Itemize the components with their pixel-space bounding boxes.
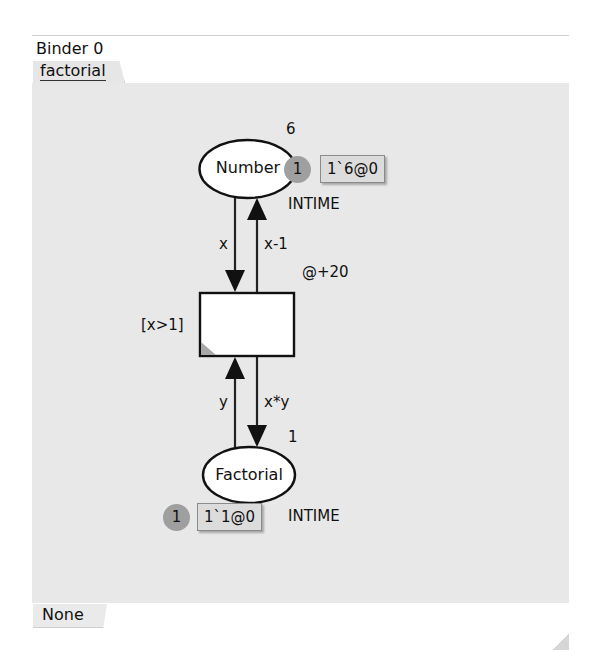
factorial-token-count-badge[interactable]: 1 [163,504,190,531]
arc-factorial-to-transition[interactable] [225,357,245,449]
transition-guard: [x>1] [141,317,184,334]
factorial-colorset: INTIME [288,508,340,525]
arc-inscription-x-minus-1: x-1 [264,236,288,253]
place-number-label: Number [200,159,296,177]
factorial-initial-marking: 1 [288,429,298,446]
transition[interactable] [200,293,294,356]
tab-none[interactable]: None [33,604,107,628]
arc-inscription-x: x [219,236,228,253]
resize-grip-icon[interactable] [553,634,569,650]
place-factorial-label: Factorial [203,466,295,484]
arc-number-to-transition[interactable] [225,197,245,292]
arc-inscription-x-times-y: x*y [264,394,289,411]
petri-net-graph [0,0,595,669]
tab-none-label: None [42,606,84,624]
number-colorset: INTIME [288,196,340,213]
cpn-editor-window: Binder 0 factorial [0,0,595,669]
number-initial-marking: 6 [286,121,296,138]
arc-inscription-y: y [219,394,228,411]
number-current-marking[interactable]: 1`6@0 [320,155,385,183]
factorial-current-marking[interactable]: 1`1@0 [197,503,262,531]
number-token-count-badge[interactable]: 1 [284,156,311,183]
transition-time-delay: @+20 [302,264,349,281]
